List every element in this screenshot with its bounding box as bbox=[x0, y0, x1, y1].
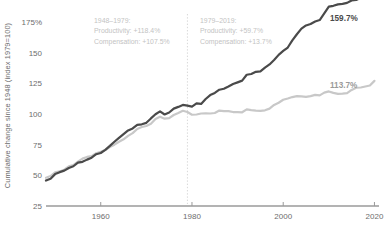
annotation-right-line-2: Productivity: +59.7% bbox=[200, 26, 272, 36]
annotation-period-1948-1979: 1948–1979: Productivity: +118.4% Compens… bbox=[94, 16, 170, 47]
x-tick-label: 2000 bbox=[274, 212, 292, 221]
y-axis-ticks: 175%150125100755025 bbox=[22, 18, 43, 211]
x-tick-label: 1980 bbox=[183, 212, 201, 221]
productivity-compensation-chart: Cumulative change since 1948 (index 1979… bbox=[0, 0, 385, 236]
annotation-left-line-1: 1948–1979: bbox=[94, 16, 170, 26]
y-tick-label: 125 bbox=[29, 79, 43, 88]
annotation-left-line-2: Productivity: +118.4% bbox=[94, 26, 170, 36]
y-tick-label: 100 bbox=[29, 110, 43, 119]
x-axis-ticks: 1960198020002020 bbox=[92, 202, 384, 221]
annotation-right-line-1: 1979–2019: bbox=[200, 16, 272, 26]
y-tick-label: 50 bbox=[33, 171, 42, 180]
x-tick-label: 2020 bbox=[366, 212, 384, 221]
annotation-right-line-3: Compensation: +13.7% bbox=[200, 37, 272, 47]
annotation-period-1979-2019: 1979–2019: Productivity: +59.7% Compensa… bbox=[200, 16, 272, 47]
y-tick-label: 175% bbox=[22, 18, 42, 27]
y-tick-label: 25 bbox=[33, 202, 42, 211]
y-tick-label: 75 bbox=[33, 141, 42, 150]
y-tick-label: 150 bbox=[29, 49, 43, 58]
plot-area: 175%150125100755025 1960198020002020 bbox=[0, 0, 385, 236]
end-label-compensation: 113.7% bbox=[330, 81, 357, 90]
end-label-productivity: 159.7% bbox=[330, 14, 358, 23]
annotation-left-line-3: Compensation: +107.5% bbox=[94, 37, 170, 47]
x-tick-label: 1960 bbox=[92, 212, 110, 221]
